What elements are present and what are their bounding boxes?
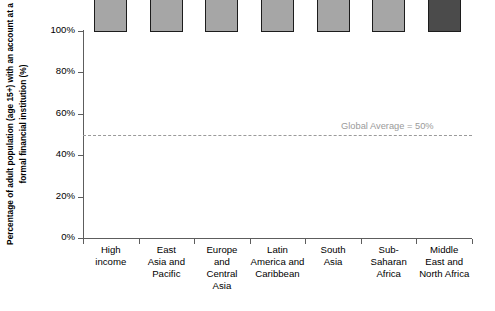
y-tick-label: 100% bbox=[33, 24, 75, 35]
bar: 39% bbox=[261, 0, 294, 32]
y-tick-label: 20% bbox=[33, 190, 75, 201]
bar-series: 89%55%45%39%33%24%18% bbox=[83, 31, 84, 32]
x-category-label: Sub-SaharanAfrica bbox=[359, 244, 419, 280]
bar: 89% bbox=[94, 0, 127, 32]
x-category-label-line: South bbox=[303, 244, 363, 256]
x-category-label-line: Europe bbox=[192, 244, 252, 256]
x-category-label-line: Latin bbox=[248, 244, 308, 256]
x-category-label-line: Asia and bbox=[136, 256, 196, 268]
x-category-label-line: Pacific bbox=[136, 268, 196, 280]
x-category-label: EastAsia andPacific bbox=[136, 244, 196, 280]
global-average-label: Global Average = 50% bbox=[341, 121, 434, 131]
x-category-label-line: Saharan bbox=[359, 256, 419, 268]
y-tick-label: 0% bbox=[33, 231, 75, 242]
y-axis-title-text: Percentage of adult population (age 15+)… bbox=[4, 2, 30, 246]
plot-area: 0%20%40%60%80%100% Global Average = 50% … bbox=[83, 31, 472, 238]
y-tick-mark bbox=[78, 155, 83, 156]
bar: 24% bbox=[372, 0, 405, 32]
x-category-label-line: Caribbean bbox=[248, 268, 308, 280]
x-axis-line bbox=[83, 238, 472, 239]
x-category-label: MiddleEast andNorth Africa bbox=[414, 244, 474, 280]
global-average-line bbox=[83, 135, 472, 136]
x-category-label-line: Middle bbox=[414, 244, 474, 256]
bar: 45% bbox=[205, 0, 238, 32]
x-category-label-line: and bbox=[192, 256, 252, 268]
bar: 18% bbox=[428, 0, 461, 32]
bar: 33% bbox=[317, 0, 350, 32]
x-category-label-line: East and bbox=[414, 256, 474, 268]
y-tick-mark bbox=[78, 197, 83, 198]
bar-chart: Percentage of adult population (age 15+)… bbox=[0, 0, 495, 311]
x-category-label-line: Sub- bbox=[359, 244, 419, 256]
x-category-label-line: income bbox=[81, 256, 141, 268]
x-category-label: LatinAmerica andCaribbean bbox=[248, 244, 308, 280]
x-category-label-line: America and bbox=[248, 256, 308, 268]
y-tick-label: 80% bbox=[33, 65, 75, 76]
y-tick-label: 40% bbox=[33, 148, 75, 159]
x-category-label: SouthAsia bbox=[303, 244, 363, 268]
x-category-label-line: East bbox=[136, 244, 196, 256]
bar: 55% bbox=[150, 0, 183, 32]
y-axis-title: Percentage of adult population (age 15+)… bbox=[0, 0, 40, 250]
x-category-label: EuropeandCentralAsia bbox=[192, 244, 252, 292]
x-category-label: Highincome bbox=[81, 244, 141, 268]
y-tick-mark bbox=[78, 114, 83, 115]
x-category-label-line: High bbox=[81, 244, 141, 256]
x-category-label-line: Asia bbox=[192, 280, 252, 292]
x-category-label-line: Central bbox=[192, 268, 252, 280]
x-category-label-line: North Africa bbox=[414, 268, 474, 280]
x-category-label-line: Africa bbox=[359, 268, 419, 280]
y-tick-mark bbox=[78, 72, 83, 73]
x-category-label-line: Asia bbox=[303, 256, 363, 268]
y-tick-label: 60% bbox=[33, 107, 75, 118]
